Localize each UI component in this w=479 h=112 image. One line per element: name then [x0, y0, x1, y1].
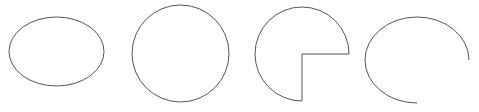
- pie-shape: [255, 7, 349, 101]
- ellipse-shape: [9, 17, 104, 86]
- shapes-canvas: [0, 0, 479, 112]
- circle-shape: [132, 5, 229, 102]
- arc-shape: [365, 17, 469, 103]
